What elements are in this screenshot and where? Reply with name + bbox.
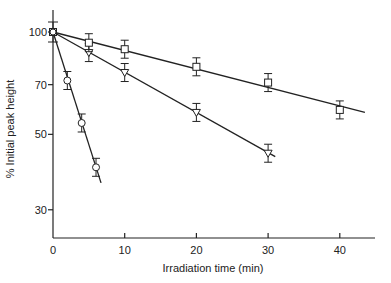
x-tick-label: 30 [262,244,274,256]
circle-marker [78,119,85,126]
x-axis-label: Irradiation time (min) [163,262,264,274]
x-tick-label: 40 [334,244,346,256]
y-tick-label: 50 [35,128,47,140]
x-tick-label: 0 [50,244,56,256]
chart: 010203040100705030Irradiation time (min)… [0,0,391,283]
y-tick-label: 70 [35,79,47,91]
triangle-marker [192,109,200,116]
square-marker [193,63,200,70]
y-tick-label: 100 [29,26,47,38]
x-tick-label: 20 [190,244,202,256]
squares-fit-line [53,32,365,112]
y-axis-label: % Initial peak height [4,80,16,178]
square-marker [85,39,92,46]
square-marker [265,79,272,86]
square-marker [121,46,128,53]
circle-marker [64,77,71,84]
circle-marker [93,164,100,171]
triangle-marker [121,70,129,77]
y-tick-label: 30 [35,204,47,216]
plot-area: 010203040100705030Irradiation time (min)… [0,0,391,283]
x-tick-label: 10 [119,244,131,256]
square-marker [336,106,343,113]
